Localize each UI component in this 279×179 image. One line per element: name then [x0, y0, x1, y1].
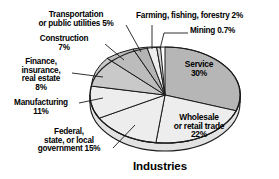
label-mining: Mining 0.7% — [190, 27, 278, 36]
label-farming: Farming, fishing, forestry 2% — [136, 12, 279, 21]
label-government: Federal, state, or local government 15% — [24, 128, 114, 154]
label-transportation: Transportation or public utilities 5% — [18, 11, 134, 28]
label-service: Service 30% — [168, 60, 230, 77]
chart-title: Industries — [133, 160, 187, 172]
label-construction: Construction 7% — [22, 35, 106, 52]
label-finance: Finance, insurance, real estate 8% — [10, 58, 72, 92]
label-wholesale: Wholesale or retail trade 22% — [156, 113, 242, 139]
pie-chart-figure: Transportation or public utilities 5% Co… — [0, 0, 279, 179]
label-manufacturing: Manufacturing 11% — [2, 99, 80, 116]
leader-transportation — [126, 25, 141, 52]
